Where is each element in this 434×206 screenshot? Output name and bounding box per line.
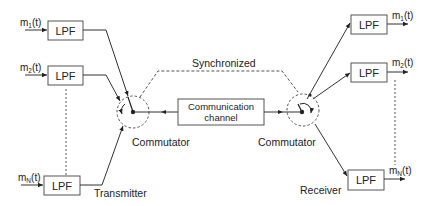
svg-text:LPF: LPF — [55, 70, 75, 82]
tx-input-1-label: m1(t) — [20, 17, 41, 29]
tx-lpf-n: LPF — [44, 176, 80, 195]
sync-label: Synchronized — [192, 57, 256, 69]
svg-text:channel: channel — [204, 112, 237, 123]
tx-lpf-1: LPF — [48, 21, 83, 40]
svg-text:LPF: LPF — [55, 25, 75, 37]
rx-lpf-n: LPF — [348, 170, 384, 190]
rx-lpf-2: LPF — [351, 63, 387, 82]
tx-input-1: m1(t) — [20, 17, 47, 30]
rx-output-1-label: m1(t) — [392, 10, 413, 22]
sync-link — [140, 71, 298, 97]
receiver-label: Receiver — [300, 184, 342, 196]
tx-input-2: m2(t) — [20, 62, 47, 75]
rx-lpf-1: LPF — [351, 15, 387, 34]
tdm-diagram: m1(t) LPF m2(t) LPF mN(t) LPF Commutator… — [0, 0, 434, 206]
svg-text:LPF: LPF — [356, 174, 376, 186]
svg-text:LPF: LPF — [52, 180, 72, 192]
tx-input-2-label: m2(t) — [20, 62, 41, 74]
rx-commutator-label: Commutator — [258, 136, 316, 148]
tx-input-n: mN(t) — [18, 172, 43, 185]
svg-text:Communication: Communication — [188, 101, 254, 112]
tx-commutator-label: Commutator — [132, 136, 190, 148]
svg-text:LPF: LPF — [359, 19, 379, 31]
svg-text:LPF: LPF — [359, 67, 379, 79]
rx-output-2-label: m2(t) — [392, 57, 413, 69]
transmitter-label: Transmitter — [94, 187, 147, 199]
tx-lpf-2: LPF — [48, 66, 83, 85]
tx-input-n-label: mN(t) — [18, 172, 41, 184]
communication-channel: Communication channel — [178, 99, 264, 125]
rx-output-n-label: mN(t) — [389, 165, 412, 177]
